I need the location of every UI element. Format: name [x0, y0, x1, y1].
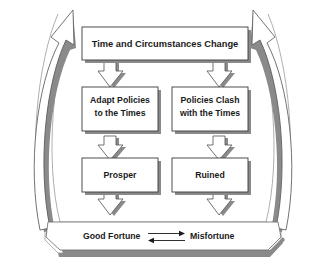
connector-body: [207, 60, 232, 87]
cycle-diagram: Time and Circumstances Change Adapt Poli…: [0, 0, 326, 276]
node-box-right-bottom: Ruined: [172, 158, 251, 195]
band-label-misfortune: Misfortune: [190, 231, 235, 241]
node-box-right-mid: Policies Clash with the Times: [172, 87, 251, 134]
node-box-left-bottom: Prosper: [82, 158, 161, 195]
node-box-top: Time and Circumstances Change: [82, 27, 251, 63]
node-box-left-mid: Adapt Policies to the Times: [82, 87, 161, 134]
block-down-arrow-icon-right-mid-to-ruined: [207, 136, 235, 161]
node-label-left-bottom: Prosper: [104, 170, 137, 180]
bottom-band: [46, 222, 285, 254]
connector-body: [207, 136, 232, 160]
block-down-arrow-icon-left-mid-to-prosper: [98, 136, 126, 161]
node-label-right-bottom: Ruined: [195, 170, 224, 180]
connector-body: [98, 136, 123, 160]
block-down-arrow-icon-top-to-right-mid: [207, 60, 235, 88]
node-label-right-mid-line2: with the Times: [179, 108, 240, 118]
node-label-left-mid-line2: to the Times: [94, 108, 145, 118]
band-label-good-fortune: Good Fortune: [83, 231, 141, 241]
band-face: [46, 222, 281, 250]
connector-body: [98, 60, 123, 87]
node-label-right-mid-line1: Policies Clash: [181, 95, 240, 105]
diagram-canvas: Time and Circumstances Change Adapt Poli…: [0, 0, 326, 276]
node-label-left-mid-line1: Adapt Policies: [90, 95, 150, 105]
block-down-arrow-icon-top-to-left-mid: [98, 60, 126, 88]
node-label-top: Time and Circumstances Change: [92, 39, 239, 49]
